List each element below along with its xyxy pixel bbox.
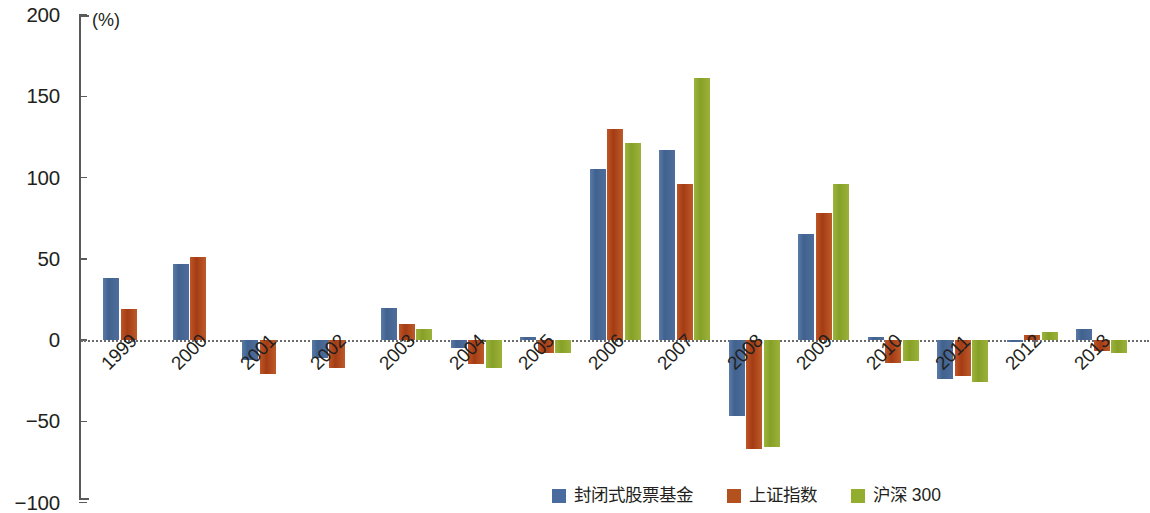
legend-label: 沪深 300 bbox=[873, 487, 941, 505]
legend-label: 上证指数 bbox=[749, 487, 817, 505]
plot-area: 1999200020012002200320042005200620072008… bbox=[81, 0, 1150, 513]
bar-chart: 200150100500−50−100 (%) 1999200020012002… bbox=[0, 0, 1150, 513]
y-axis-tick-label: −100 bbox=[0, 493, 60, 513]
bar-2006-series-0 bbox=[590, 169, 606, 340]
bar-2003-series-0 bbox=[381, 308, 397, 341]
bar-2009-series-2 bbox=[833, 184, 849, 340]
bar-2009-series-0 bbox=[798, 234, 814, 340]
legend-swatch-icon bbox=[727, 489, 741, 503]
legend-swatch-icon bbox=[552, 489, 566, 503]
bar-2000-series-0 bbox=[173, 264, 189, 340]
chart-legend: 封闭式股票基金上证指数沪深 300 bbox=[552, 487, 941, 505]
y-axis-tick-label: 50 bbox=[0, 249, 60, 270]
bar-2007-series-1 bbox=[677, 184, 693, 340]
y-axis-tick-label: −50 bbox=[0, 411, 60, 432]
y-axis-tick-label: 200 bbox=[0, 5, 60, 26]
y-axis-tick-label: 100 bbox=[0, 168, 60, 189]
bar-2009-series-1 bbox=[816, 213, 832, 340]
x-axis-label-2002: 2002 bbox=[306, 330, 351, 375]
bar-2000-series-1 bbox=[190, 257, 206, 340]
legend-label: 封闭式股票基金 bbox=[574, 487, 693, 505]
bar-2006-series-2 bbox=[625, 143, 641, 340]
bar-1999-series-0 bbox=[103, 278, 119, 340]
y-axis-tick-label: 150 bbox=[0, 86, 60, 107]
y-axis-tick-label: 0 bbox=[0, 330, 60, 351]
bar-2006-series-1 bbox=[607, 129, 623, 340]
bar-2007-series-0 bbox=[659, 150, 675, 340]
bar-2003-series-2 bbox=[416, 329, 432, 340]
legend-item-0[interactable]: 封闭式股票基金 bbox=[552, 487, 693, 505]
legend-swatch-icon bbox=[851, 489, 865, 503]
legend-item-2[interactable]: 沪深 300 bbox=[851, 487, 941, 505]
bar-2012-series-2 bbox=[1042, 332, 1058, 340]
legend-item-1[interactable]: 上证指数 bbox=[727, 487, 817, 505]
bar-2008-series-2 bbox=[764, 340, 780, 447]
x-axis-label-2004: 2004 bbox=[445, 330, 490, 375]
bar-2007-series-2 bbox=[694, 78, 710, 340]
